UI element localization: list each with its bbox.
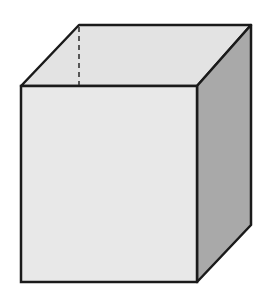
cube-svg	[0, 0, 265, 298]
cube-front-face	[21, 86, 197, 282]
cube-diagram	[0, 0, 265, 298]
